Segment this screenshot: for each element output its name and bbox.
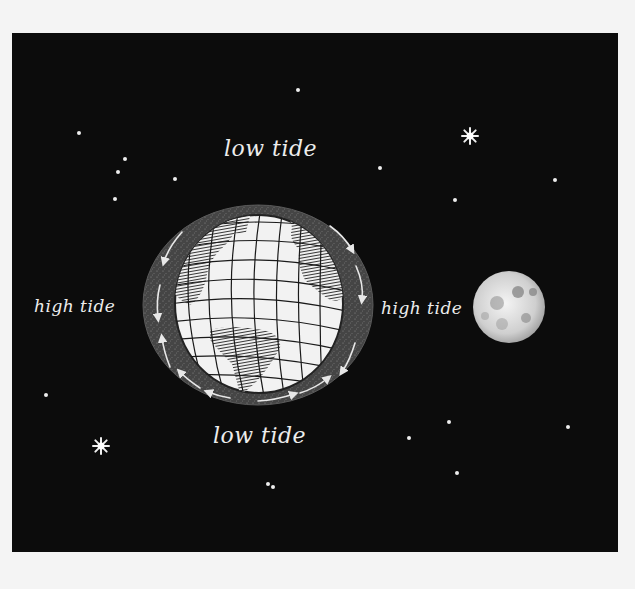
star-dot-icon xyxy=(447,420,451,424)
star-dot-icon xyxy=(296,88,300,92)
low-tide-label-top: low tide xyxy=(224,136,317,161)
high-tide-label-left: high tide xyxy=(34,296,115,316)
star-dot-icon xyxy=(271,485,275,489)
star-dot-icon xyxy=(566,425,570,429)
star-dot-icon xyxy=(123,157,127,161)
moon xyxy=(473,271,545,343)
star-dot-icon xyxy=(266,482,270,486)
star-dot-icon xyxy=(455,471,459,475)
high-tide-label-right: high tide xyxy=(381,298,462,318)
low-tide-label-bottom: low tide xyxy=(213,423,306,448)
tides-diagram xyxy=(0,0,635,589)
star-icon xyxy=(93,438,109,454)
star-icon xyxy=(462,128,478,144)
star-dot-icon xyxy=(77,131,81,135)
star-dot-icon xyxy=(113,197,117,201)
star-dot-icon xyxy=(44,393,48,397)
star-dot-icon xyxy=(407,436,411,440)
star-dot-icon xyxy=(173,177,177,181)
star-dot-icon xyxy=(453,198,457,202)
star-dot-icon xyxy=(116,170,120,174)
star-dot-icon xyxy=(378,166,382,170)
star-dot-icon xyxy=(553,178,557,182)
